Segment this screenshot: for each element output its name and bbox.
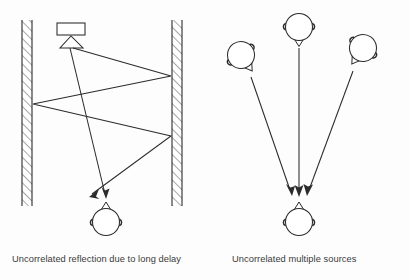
source-ray-left [251, 77, 295, 196]
hatched-wall-right [172, 20, 182, 206]
left-panel-group: Uncorrelated reflection due to long dela… [12, 20, 182, 264]
right-panel-group: Uncorrelated multiple sources [220, 14, 383, 265]
source-ray-center [295, 48, 304, 197]
listener-head [90, 202, 121, 236]
source-head-center [283, 14, 314, 47]
right-panel-caption: Uncorrelated multiple sources [232, 254, 357, 264]
source-head-left [220, 35, 264, 80]
listener-head [283, 202, 314, 236]
hatched-wall-left [22, 20, 32, 206]
source-ray-right [304, 71, 354, 196]
loudspeaker-icon [57, 23, 85, 48]
direct-ray-path [70, 48, 110, 199]
figure-container: Uncorrelated reflection due to long dela… [0, 0, 409, 280]
source-head-right [339, 28, 383, 73]
left-panel-caption: Uncorrelated reflection due to long dela… [12, 254, 181, 264]
diagram-canvas: Uncorrelated reflection due to long dela… [0, 0, 409, 280]
reflected-ray-path [33, 48, 171, 199]
